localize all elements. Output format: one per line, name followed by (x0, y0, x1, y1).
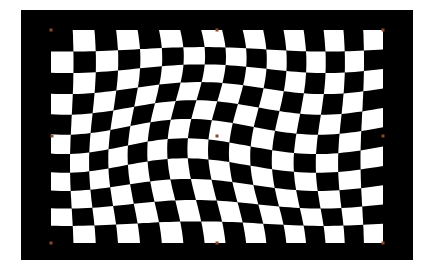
checker-cell (251, 166, 275, 188)
checker-cell (266, 49, 286, 71)
checker-cell (108, 145, 128, 168)
checker-cell (202, 64, 226, 83)
checker-cell (338, 131, 361, 153)
warp-handle[interactable] (51, 135, 54, 138)
checker-cell (363, 69, 383, 91)
checker-cell (168, 119, 192, 139)
warp-handle[interactable] (216, 29, 219, 32)
warped-checkerboard (0, 0, 428, 269)
checker-cell (324, 30, 345, 52)
checker-cell (316, 153, 339, 173)
checker-cell (272, 150, 294, 172)
checker-cell (159, 222, 183, 243)
checker-cell (128, 122, 151, 145)
checker-cell (140, 48, 162, 68)
checker-cell (226, 48, 247, 67)
checker-cell (363, 30, 383, 51)
checker-cell (259, 88, 284, 111)
warp-handle[interactable] (216, 242, 219, 245)
checker-cell (306, 51, 326, 73)
checker-cell (342, 91, 364, 114)
checker-cell (89, 168, 110, 189)
checker-cell (209, 120, 233, 142)
checker-cell (243, 30, 267, 49)
checker-cell (341, 207, 363, 226)
checker-cell (243, 67, 266, 89)
checker-cell (217, 83, 243, 104)
checker-cell (51, 94, 73, 115)
checker-cell (175, 200, 201, 222)
warp-handle[interactable] (382, 242, 385, 245)
checker-cell (116, 223, 140, 243)
checker-cell (89, 130, 110, 153)
checker-cell (187, 138, 208, 159)
checker-cell (116, 68, 140, 90)
checker-cell (361, 147, 384, 170)
checker-cell (92, 206, 116, 225)
checker-cell (294, 172, 318, 191)
checker-cell (183, 47, 205, 65)
checker-cell (284, 225, 307, 243)
checker-cell (73, 72, 96, 94)
checker-cell (51, 134, 71, 154)
checker-cell (51, 208, 73, 226)
warp-handle[interactable] (382, 135, 385, 138)
checker-cell (243, 223, 267, 243)
checker-cell (51, 52, 74, 74)
checker-cell (71, 190, 93, 209)
warp-handle[interactable] (382, 29, 385, 32)
checker-cell (191, 179, 217, 201)
checker-cell (361, 185, 383, 206)
checker-cell (150, 180, 175, 202)
checker-cell (159, 65, 183, 85)
checker-cell (284, 30, 307, 51)
checker-cell (258, 204, 283, 224)
checker-cell (51, 172, 71, 191)
checker-cell (159, 30, 183, 48)
checker-cell (275, 188, 300, 208)
checker-cell (251, 127, 275, 150)
checker-cell (116, 30, 140, 50)
checker-cell (70, 153, 89, 173)
checker-cell (284, 71, 306, 93)
checker-cell (151, 101, 176, 122)
checker-cell (201, 30, 225, 48)
checker-cell (147, 139, 167, 161)
checker-cell (110, 184, 134, 206)
checker-cell (275, 111, 300, 134)
checker-cell (232, 182, 258, 204)
checker-cell (300, 93, 324, 114)
checker-cell (294, 134, 318, 154)
checker-cell (229, 143, 251, 166)
checker-cell (338, 170, 361, 191)
checker-cell (93, 91, 117, 114)
checker-cell (176, 82, 202, 101)
checker-cell (134, 202, 159, 224)
checker-cell (345, 51, 364, 73)
checker-cell (233, 104, 259, 127)
checker-cell (128, 161, 150, 184)
checker-cell (324, 73, 345, 95)
checker-cell (300, 208, 324, 226)
checker-cell (318, 190, 342, 208)
checker-cell (324, 226, 345, 243)
checker-cell (361, 108, 383, 131)
checker-cell (71, 113, 93, 135)
checker-cell (217, 201, 243, 223)
checker-cell (318, 114, 342, 135)
checker-cell (168, 158, 191, 179)
warp-handle[interactable] (50, 29, 53, 32)
checker-cell (363, 224, 383, 243)
checker-cell (208, 159, 232, 182)
warp-handle[interactable] (50, 242, 53, 245)
checker-cell (96, 50, 119, 72)
checker-cell (191, 100, 217, 120)
checker-cell (201, 221, 225, 243)
checker-cell (73, 30, 96, 52)
checker-cell (73, 225, 96, 243)
warp-handle[interactable] (216, 135, 219, 138)
